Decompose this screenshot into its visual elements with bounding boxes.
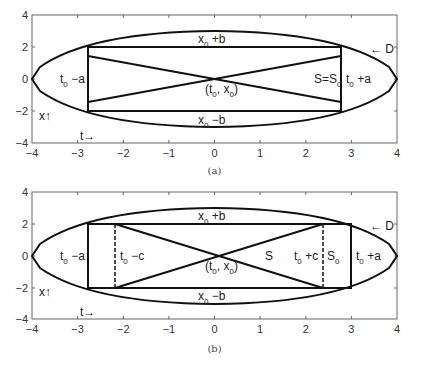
svg-text:−3: −3 [71, 323, 84, 335]
svg-text:−4: −4 [15, 313, 28, 325]
label-t0-plus-a-b: t0 +a [356, 249, 381, 266]
label-region-s-a: S=S0 [314, 72, 342, 89]
svg-text:4: 4 [394, 323, 400, 335]
y-tick-labels-a: 4 2 0 −2 −4 [15, 9, 28, 149]
svg-text:4: 4 [394, 147, 400, 159]
svg-text:0: 0 [22, 73, 28, 85]
label-x-axis-hint-a: x↑ [39, 109, 51, 123]
svg-text:1: 1 [257, 147, 263, 159]
label-domain-d-a: ← D [370, 42, 394, 56]
label-center-point-a: (t0, x0) [205, 82, 238, 99]
label-domain-d-b: ← D [370, 219, 394, 233]
label-t-axis-hint-a: t→ [80, 129, 95, 143]
svg-text:−2: −2 [117, 323, 130, 335]
svg-text:4: 4 [22, 186, 28, 198]
caption-a: (a) [208, 165, 222, 176]
label-center-point-b: (t0, x0) [205, 259, 238, 276]
label-t0-minus-a-b: t0 −a [60, 249, 85, 266]
figure: −4 −3 −2 −1 0 1 2 3 4 4 2 0 −2 −4 x0 +b [0, 0, 421, 370]
svg-text:2: 2 [22, 41, 28, 53]
svg-text:−1: −1 [163, 323, 176, 335]
y-ticks-b [32, 224, 397, 288]
svg-text:3: 3 [348, 147, 354, 159]
svg-text:1: 1 [257, 323, 263, 335]
caption-b: (b) [207, 343, 221, 354]
svg-text:2: 2 [303, 147, 309, 159]
svg-text:−4: −4 [15, 137, 28, 149]
label-region-s-b: S [265, 249, 273, 263]
svg-text:−2: −2 [15, 105, 28, 117]
panel-a: −4 −3 −2 −1 0 1 2 3 4 4 2 0 −2 −4 x0 +b [15, 9, 400, 176]
panel-b: −4 −3 −2 −1 0 1 2 3 4 4 2 0 −2 −4 x0 +b … [15, 186, 400, 354]
svg-text:0: 0 [211, 147, 217, 159]
svg-text:0: 0 [22, 250, 28, 262]
svg-text:4: 4 [22, 9, 28, 21]
label-x-axis-hint-b: x↑ [39, 285, 51, 299]
label-region-s0-b: S0 [327, 249, 340, 266]
svg-text:0: 0 [211, 323, 217, 335]
x-tick-labels-a: −4 −3 −2 −1 0 1 2 3 4 [26, 147, 400, 159]
svg-text:−2: −2 [15, 282, 28, 294]
svg-text:−1: −1 [163, 147, 176, 159]
label-t0-plus-c-b: t0 +c [294, 249, 318, 266]
svg-text:−2: −2 [117, 147, 130, 159]
x-tick-labels-b: −4 −3 −2 −1 0 1 2 3 4 [26, 323, 400, 335]
svg-text:3: 3 [348, 323, 354, 335]
label-t0-minus-c-b: t0 −c [120, 249, 144, 266]
label-t0-minus-a-a: t0 −a [60, 72, 85, 89]
y-tick-labels-b: 4 2 0 −2 −4 [15, 186, 28, 325]
svg-text:−3: −3 [71, 147, 84, 159]
svg-text:2: 2 [22, 218, 28, 230]
label-t0-plus-a-a: t0 +a [346, 72, 371, 89]
label-t-axis-hint-b: t→ [80, 305, 95, 319]
svg-text:2: 2 [303, 323, 309, 335]
